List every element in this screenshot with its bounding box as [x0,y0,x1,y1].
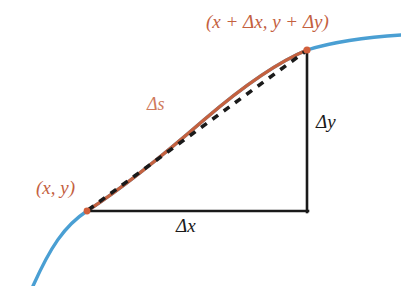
function-curve [33,35,401,286]
start-point-marker [84,208,91,215]
end-point-marker [303,46,310,53]
diagram-canvas [0,0,401,286]
delta-s-label: Δs [147,95,165,113]
delta-y-label: Δy [316,112,336,131]
arc-length-figure: (x + Δx, y + Δy) (x, y) Δs Δy Δx [0,0,401,286]
startpoint-coordinate-label: (x, y) [36,178,75,197]
delta-x-label: Δx [176,216,196,235]
endpoint-coordinate-label: (x + Δx, y + Δy) [206,12,329,31]
